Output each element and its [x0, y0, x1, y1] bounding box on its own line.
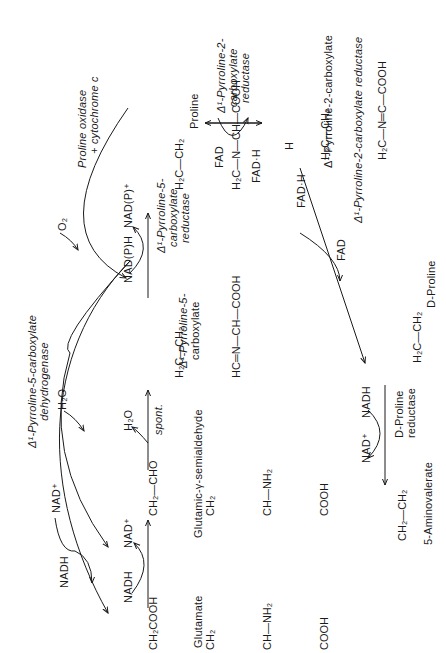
h2o-top: H₂O [56, 389, 68, 410]
proline-oxidase-line1: Proline oxidase [76, 76, 88, 168]
nadh-dpro: NADH [360, 386, 372, 418]
fad-top: FAD [213, 146, 225, 168]
proline-ring-top: H₂C—CH₂ [170, 80, 189, 190]
p5c-label: Δ¹-Pyrroline-5- carboxylate [177, 293, 201, 368]
aminovalerate-line-1: CH₂—CH₂ [393, 479, 412, 541]
d-proline-reductase-label: D-Proline reductase [393, 388, 417, 438]
p2c-reductase-top-line2: carboxylate [227, 38, 239, 113]
proline-oxidase-label: Proline oxidase + cytochrome c [76, 76, 100, 168]
p5c-label-line2: carboxylate [189, 293, 201, 368]
gsa-line-4: COOH [315, 460, 334, 516]
p2c-reductase-top-line3: reductase [239, 38, 251, 113]
p5c-reductase-label: Δ¹-Pyrroline-5- carboxylate reductase [155, 178, 191, 253]
fadh-diag: FAD·H [295, 174, 307, 208]
nadph: NAD(P)H [122, 236, 134, 283]
proline-oxidase-line2: + cytochrome c [88, 76, 100, 168]
aminovalerate-label: 5-Aminovalerate [422, 462, 434, 545]
gsa-line-3: CH—NH₂ [258, 460, 277, 516]
p5c-label-line1: Δ¹-Pyrroline-5- [177, 293, 189, 368]
pathway-diagram: CH₂COOH CH₂ CH—NH₂ COOH Glutamate CH₂—CH… [0, 0, 446, 653]
d-proline-reductase-line2: reductase [405, 388, 417, 438]
nad-plus-dpro: NAD⁺ [360, 433, 372, 463]
proline-label: Proline [188, 93, 200, 129]
glutamate-structure: CH₂COOH CH₂ CH—NH₂ COOH [106, 597, 372, 650]
p5c-reductase-line2: carboxylate [167, 178, 179, 253]
p5c-reductase-line3: reductase [179, 178, 191, 253]
p5c-dehydrogenase-line2: dehydrogenase [38, 315, 50, 448]
glutamate-line-3: CH—NH₂ [258, 597, 277, 650]
glutamate-line-1: CH₂COOH [144, 597, 163, 650]
nad-plus-lower: NAD⁺ [122, 518, 134, 548]
p5c-ring-bottom: HC═N—CH—COOH [227, 275, 246, 378]
p2c-reductase-top-label: Δ¹-Pyrroline-2- carboxylate reductase [215, 38, 251, 113]
p5c-reductase-line1: Δ¹-Pyrroline-5- [155, 178, 167, 253]
h2o-lower: H₂O [122, 410, 134, 431]
fad-diag: FAD [335, 239, 347, 261]
p2c-label: Δ¹-Pyrroline-2-carboxylate [322, 35, 334, 168]
spont-label: spont. [152, 404, 164, 435]
nadh-lower: NADH [122, 571, 134, 603]
p5c-structure: H₂C—CH₂ HC═N—CH—COOH [132, 275, 284, 378]
gsa-structure: CH₂—CHO CH₂ CH—NH₂ COOH [106, 460, 372, 516]
nadp-plus: NAD(P)⁺ [122, 183, 134, 228]
o2: O₂ [56, 218, 68, 231]
p2c-reductase-diag-label: Δ¹-Pyrroline-2-carboxylate reductase [352, 37, 364, 223]
p5c-dehydrogenase-line1: Δ¹-Pyrroline-5-carboxylate [26, 315, 38, 448]
fadh-top: FAD·H [250, 149, 262, 183]
glutamate-line-4: COOH [315, 597, 334, 650]
gsa-label: Glutamic-γ-semialdehyde [192, 409, 204, 538]
d-proline-reductase-line1: D-Proline [393, 388, 405, 438]
p5c-dehydrogenase-label: Δ¹-Pyrroline-5-carboxylate dehydrogenase [26, 315, 50, 448]
nad-plus-top: NAD⁺ [50, 483, 62, 513]
d-proline-label: D-Proline [425, 260, 437, 308]
gsa-line-1: CH₂—CHO [144, 460, 163, 516]
p2c-reductase-top-line1: Δ¹-Pyrroline-2- [215, 38, 227, 113]
p2c-ring-bottom: H₂C—N═C—COOH [373, 61, 392, 160]
glutamate-label: Glutamate [192, 595, 204, 648]
nadh-top: NADH [58, 556, 70, 588]
